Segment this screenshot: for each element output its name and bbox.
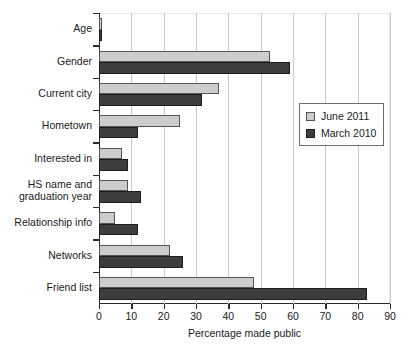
y-tick-6 [93, 207, 99, 208]
x-tick-60 [293, 304, 294, 309]
bar-4-1 [99, 159, 128, 171]
legend: June 2011 March 2010 [299, 103, 384, 146]
bar-6-1 [99, 224, 138, 236]
y-axis-label-7: Networks [48, 250, 92, 262]
legend-label: March 2010 [321, 127, 376, 139]
x-tick-label-20: 20 [149, 310, 179, 322]
bar-5-0 [99, 180, 128, 192]
x-tick-50 [261, 304, 262, 309]
bar-8-0 [99, 277, 254, 289]
bar-7-1 [99, 256, 183, 268]
y-tick-8 [93, 272, 99, 273]
y-tick-3 [93, 110, 99, 111]
x-tick-20 [164, 304, 165, 309]
gridline-90 [390, 13, 391, 304]
y-axis-label-8: Friend list [46, 282, 92, 294]
y-axis-label-0: Age [73, 23, 92, 35]
x-tick-label-90: 90 [375, 310, 405, 322]
y-axis-label-3: Hometown [42, 120, 92, 132]
x-axis-title: Percentage made public [99, 327, 390, 339]
x-tick-30 [196, 304, 197, 309]
x-tick-90 [390, 304, 391, 309]
y-axis-label-5: HS name and graduation year [19, 179, 92, 202]
y-tick-0 [93, 13, 99, 14]
x-tick-label-50: 50 [246, 310, 276, 322]
bar-1-1 [99, 62, 290, 74]
legend-swatch-icon [306, 112, 315, 121]
bar-8-1 [99, 288, 367, 300]
y-axis-label-2: Current city [38, 88, 92, 100]
legend-item-june-2011: June 2011 [306, 109, 376, 123]
bar-4-0 [99, 148, 122, 160]
x-tick-label-70: 70 [310, 310, 340, 322]
gridline-80 [358, 13, 359, 304]
x-tick-label-80: 80 [343, 310, 373, 322]
bar-3-1 [99, 127, 138, 139]
bar-1-0 [99, 51, 270, 63]
bar-6-0 [99, 212, 115, 224]
gridline-70 [325, 13, 326, 304]
bar-2-1 [99, 94, 202, 106]
y-axis-label-1: Gender [57, 56, 92, 68]
y-tick-1 [93, 45, 99, 46]
bar-0-0 [99, 18, 102, 30]
bar-7-0 [99, 245, 170, 257]
y-tick-2 [93, 78, 99, 79]
y-axis-label-4: Interested in [34, 153, 92, 165]
legend-item-march-2010: March 2010 [306, 126, 376, 140]
x-tick-40 [228, 304, 229, 309]
y-axis-label-6: Relationship info [14, 217, 92, 229]
gridline-60 [293, 13, 294, 304]
x-tick-label-0: 0 [84, 310, 114, 322]
y-tick-4 [93, 142, 99, 143]
x-tick-label-60: 60 [278, 310, 308, 322]
x-tick-label-30: 30 [181, 310, 211, 322]
bar-0-1 [99, 30, 102, 42]
x-tick-80 [358, 304, 359, 309]
x-tick-70 [325, 304, 326, 309]
x-tick-label-40: 40 [213, 310, 243, 322]
legend-swatch-icon [306, 129, 315, 138]
bar-chart: AgeGenderCurrent cityHometownInterested … [0, 0, 410, 355]
x-tick-10 [131, 304, 132, 309]
bar-3-0 [99, 115, 180, 127]
x-tick-0 [99, 304, 100, 309]
legend-label: June 2011 [321, 110, 369, 122]
bar-2-0 [99, 83, 219, 95]
y-tick-7 [93, 239, 99, 240]
x-tick-label-10: 10 [116, 310, 146, 322]
y-tick-5 [93, 175, 99, 176]
bar-5-1 [99, 191, 141, 203]
